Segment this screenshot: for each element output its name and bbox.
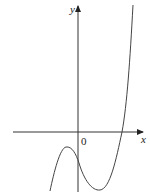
function-graph: y x 0 <box>0 0 150 196</box>
x-axis-label: x <box>140 133 146 145</box>
origin-label: 0 <box>81 135 87 147</box>
function-curve <box>50 5 133 191</box>
y-axis-label: y <box>69 3 75 15</box>
